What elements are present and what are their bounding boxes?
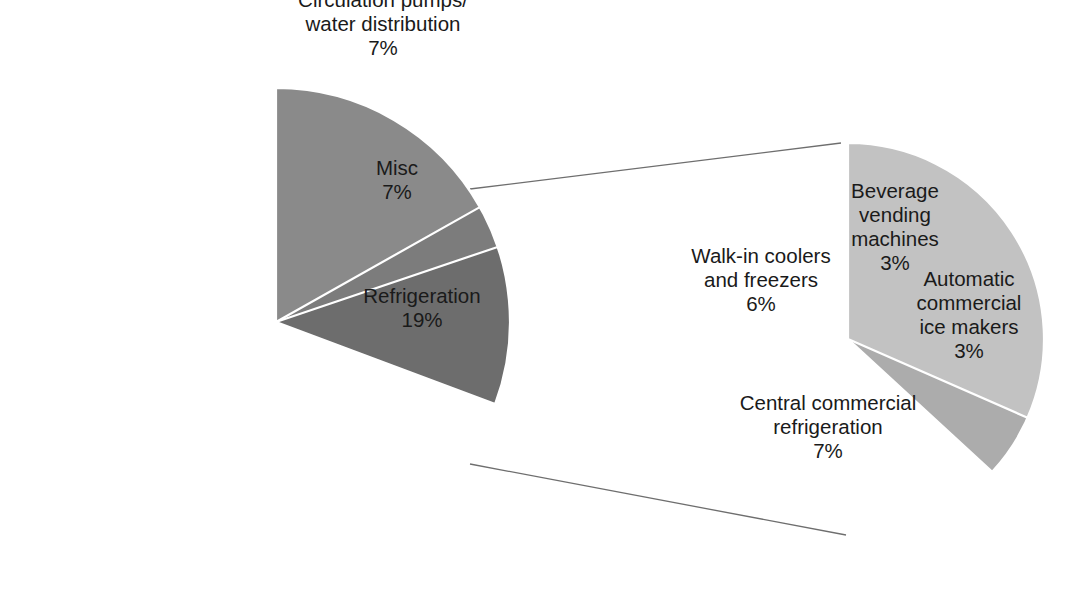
chart-canvas: Circulation pumps/water distribution7%Mi… bbox=[0, 0, 1074, 594]
main-pie-label-4-text-0: Air distribution bbox=[69, 285, 199, 308]
main-pie-label-3-text-1: conditioners bbox=[227, 419, 338, 442]
main-pie-label-5-value: 17% bbox=[174, 152, 215, 175]
refrigeration-pie-label-0-text-1: vending bbox=[859, 203, 931, 226]
refrigeration-pie-label-1-text-1: commercial bbox=[917, 291, 1022, 314]
refrigeration-pie-label-1-value: 3% bbox=[954, 339, 984, 362]
main-pie-label-3-value: 31% bbox=[261, 443, 302, 466]
main-pie-label-5-text-0: Chiller bbox=[166, 104, 224, 127]
main-pie-label-2-text-0: Refrigeration bbox=[363, 284, 480, 307]
pie-chart-figure: Circulation pumps/water distribution7%Mi… bbox=[0, 0, 1074, 594]
refrigeration-pie-label-3-text-0: Walk-in coolers bbox=[691, 244, 830, 267]
main-pie-label-4-value: 20% bbox=[113, 309, 154, 332]
main-pie-label-5-text-1: compressors bbox=[136, 128, 253, 151]
main-pie-label-0-text-0: Circulation pumps/ bbox=[298, 0, 468, 11]
refrigeration-pie-label-2-value: 7% bbox=[813, 439, 843, 462]
refrigeration-pie-label-3-value: 6% bbox=[746, 292, 776, 315]
main-pie-label-2-value: 19% bbox=[401, 308, 442, 331]
main-pie-label-0-text-1: water distribution bbox=[305, 12, 461, 35]
refrigeration-pie-label-2-text-0: Central commercial bbox=[740, 391, 917, 414]
refrigeration-pie-label-0-text-2: machines bbox=[851, 227, 939, 250]
refrigeration-pie-label-1-text-0: Automatic bbox=[923, 267, 1014, 290]
main-pie-label-1-value: 7% bbox=[382, 180, 412, 203]
refrigeration-pie-label-0-value: 3% bbox=[880, 251, 910, 274]
refrigeration-pie-label-0-text-0: Beverage bbox=[851, 179, 939, 202]
refrigeration-pie-label-1-text-2: ice makers bbox=[919, 315, 1018, 338]
main-pie-label-0-value: 7% bbox=[368, 36, 398, 59]
refrigeration-pie-label-3-text-1: and freezers bbox=[704, 268, 818, 291]
refrigeration-pie-label-2-text-1: refrigeration bbox=[773, 415, 882, 438]
main-pie-label-3-text-0: Commercial air bbox=[213, 395, 351, 418]
main-pie-label-1-text-0: Misc bbox=[376, 156, 418, 179]
